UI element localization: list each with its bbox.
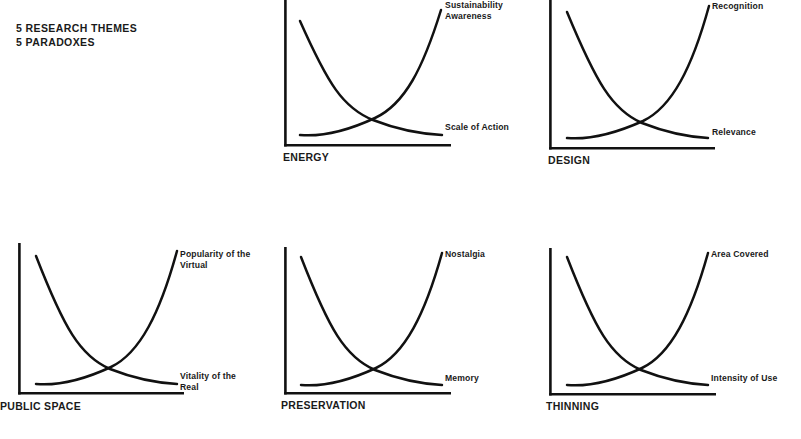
panel-title-public-space: PUBLIC SPACE [0, 400, 81, 412]
curve-rising [300, 10, 441, 135]
curve-label-line-1: Memory [445, 373, 479, 384]
panel-title-energy: ENERGY [283, 151, 329, 163]
curve-label-decaying: Memory [445, 373, 479, 384]
curve-label-decaying: Relevance [712, 127, 756, 138]
curve-label-line-2: Real [180, 382, 236, 393]
paradox-chart-design: Recognition Relevance DESIGN [548, 0, 723, 154]
curve-label-rising: Recognition [712, 1, 763, 12]
curve-label-line-1: Nostalgia [445, 249, 485, 260]
curve-decaying [36, 256, 177, 384]
heading-line-1: 5 RESEARCH THEMES [16, 22, 137, 36]
curve-decaying [301, 257, 442, 385]
curve-decaying [567, 257, 708, 385]
curve-label-rising: Popularity of the Virtual [180, 249, 250, 270]
paradox-chart-energy: Sustainability Awareness Scale of Action… [283, 0, 458, 151]
curve-label-decaying: Intensity of Use [711, 373, 777, 384]
curve-label-decaying: Vitality of the Real [180, 371, 236, 392]
curve-decaying [300, 21, 442, 135]
curve-rising [567, 6, 709, 138]
curve-label-line-1: Sustainability [445, 0, 503, 11]
curve-decaying [567, 12, 708, 138]
curve-label-line-1: Intensity of Use [711, 373, 777, 384]
curve-label-line-2: Virtual [180, 260, 250, 271]
curve-label-line-1: Recognition [712, 1, 763, 12]
curve-rising [301, 253, 442, 385]
curve-rising [36, 251, 177, 384]
curve-label-line-1: Relevance [712, 127, 756, 138]
diagram-heading: 5 RESEARCH THEMES 5 PARADOXES [16, 22, 137, 49]
curve-label-rising: Sustainability Awareness [445, 0, 503, 21]
paradox-chart-public-space: Popularity of the Virtual Vitality of th… [17, 243, 192, 396]
curve-label-line-1: Area Covered [711, 249, 769, 260]
paradox-chart-preservation: Nostalgia Memory PRESERVATION [283, 247, 458, 396]
curve-label-rising: Area Covered [711, 249, 769, 260]
curve-label-line-1: Scale of Action [445, 122, 509, 133]
curve-label-line-2: Awareness [445, 11, 503, 22]
curve-label-rising: Nostalgia [445, 249, 485, 260]
paradox-chart-thinning: Area Covered Intensity of Use THINNING [548, 248, 723, 397]
curve-rising [567, 253, 708, 385]
heading-line-2: 5 PARADOXES [16, 36, 137, 50]
panel-title-design: DESIGN [548, 154, 590, 166]
curve-label-decaying: Scale of Action [445, 122, 509, 133]
diagram-canvas: 5 RESEARCH THEMES 5 PARADOXES Sustainabi… [0, 0, 801, 439]
panel-title-preservation: PRESERVATION [281, 399, 366, 411]
panel-title-thinning: THINNING [546, 400, 599, 412]
curve-label-line-1: Vitality of the [180, 371, 236, 382]
curve-label-line-1: Popularity of the [180, 249, 250, 260]
